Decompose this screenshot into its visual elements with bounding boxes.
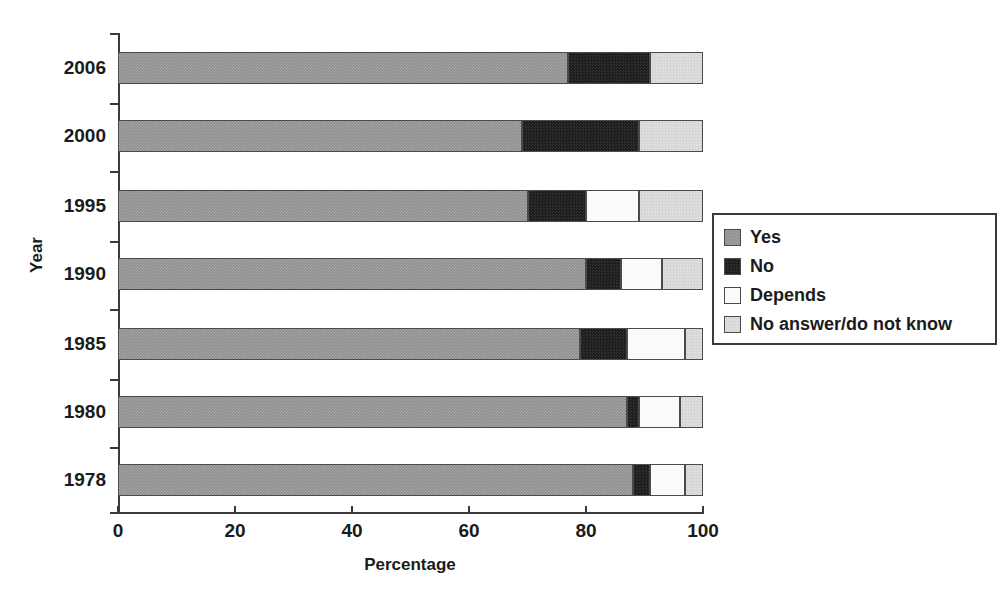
bar-segment-yes — [118, 328, 580, 360]
legend-swatch-icon — [724, 316, 741, 333]
y-axis-tick-label: 1995 — [40, 195, 106, 217]
bar-segment-yes — [118, 52, 568, 84]
legend-item: No — [724, 252, 995, 281]
bar-row — [118, 120, 703, 152]
bar-row — [118, 190, 703, 222]
legend-label: Yes — [750, 227, 781, 248]
bar-row — [118, 328, 703, 360]
y-axis-tick — [110, 309, 119, 311]
bar-segment-depends — [621, 258, 662, 290]
bar-segment-no — [568, 52, 650, 84]
x-axis-tick-label: 40 — [317, 520, 387, 542]
legend-label: Depends — [750, 285, 826, 306]
bar-segment-no-answer — [639, 190, 703, 222]
bar-segment-depends — [586, 190, 639, 222]
bar-segment-no — [528, 190, 587, 222]
bar-segment-no-answer — [685, 464, 703, 496]
x-axis-title: Percentage — [280, 555, 540, 575]
legend-swatch-icon — [724, 229, 741, 246]
bar-row — [118, 464, 703, 496]
bar-segment-depends — [639, 396, 680, 428]
bar-row — [118, 52, 703, 84]
bar-segment-yes — [118, 120, 522, 152]
y-axis-tick-label: 1978 — [40, 469, 106, 491]
bar-segment-no-answer — [662, 258, 703, 290]
bar-row — [118, 258, 703, 290]
x-axis-tick — [351, 506, 353, 514]
bar-segment-no — [580, 328, 627, 360]
legend-item: Depends — [724, 281, 995, 310]
legend-swatch-icon — [724, 287, 741, 304]
y-axis-tick — [110, 379, 119, 381]
y-axis-tick — [110, 447, 119, 449]
bar-segment-no — [633, 464, 651, 496]
y-axis-tick — [110, 33, 119, 35]
y-axis-tick-label: 2000 — [40, 125, 106, 147]
bar-segment-yes — [118, 258, 586, 290]
x-axis-tick — [234, 506, 236, 514]
x-axis-tick-label: 60 — [434, 520, 504, 542]
x-axis-line — [118, 512, 703, 514]
bar-segment-no-answer — [639, 120, 703, 152]
x-axis-tick — [702, 506, 704, 514]
bar-segment-yes — [118, 464, 633, 496]
bar-segment-depends — [627, 328, 686, 360]
chart-legend: YesNoDependsNo answer/do not know — [712, 213, 997, 345]
x-axis-tick-label: 20 — [200, 520, 270, 542]
y-axis-title: Year — [27, 210, 47, 300]
legend-swatch-icon — [724, 258, 741, 275]
y-axis-tick — [110, 103, 119, 105]
bar-segment-no-answer — [680, 396, 703, 428]
x-axis-tick-label: 100 — [668, 520, 738, 542]
bar-segment-no-answer — [650, 52, 703, 84]
legend-item: No answer/do not know — [724, 310, 995, 339]
stacked-bar-chart: 2006200019951990198519801978 02040608010… — [0, 0, 1005, 610]
y-axis-tick — [110, 241, 119, 243]
legend-item: Yes — [724, 223, 995, 252]
bar-segment-no-answer — [685, 328, 703, 360]
x-axis-tick — [585, 506, 587, 514]
bar-row — [118, 396, 703, 428]
bar-segment-depends — [650, 464, 685, 496]
bar-segment-yes — [118, 190, 528, 222]
legend-label: No answer/do not know — [750, 314, 952, 335]
bar-segment-no — [586, 258, 621, 290]
bar-segment-no — [627, 396, 639, 428]
bar-segment-yes — [118, 396, 627, 428]
y-axis-tick-label: 2006 — [40, 57, 106, 79]
x-axis-tick — [117, 506, 119, 514]
y-axis-tick-label: 1985 — [40, 333, 106, 355]
x-axis-tick-label: 0 — [83, 520, 153, 542]
y-axis-tick-label: 1990 — [40, 263, 106, 285]
y-axis-tick — [110, 171, 119, 173]
x-axis-tick-label: 80 — [551, 520, 621, 542]
x-axis-tick — [468, 506, 470, 514]
y-axis-tick-label: 1980 — [40, 401, 106, 423]
bar-segment-no — [522, 120, 639, 152]
legend-label: No — [750, 256, 774, 277]
